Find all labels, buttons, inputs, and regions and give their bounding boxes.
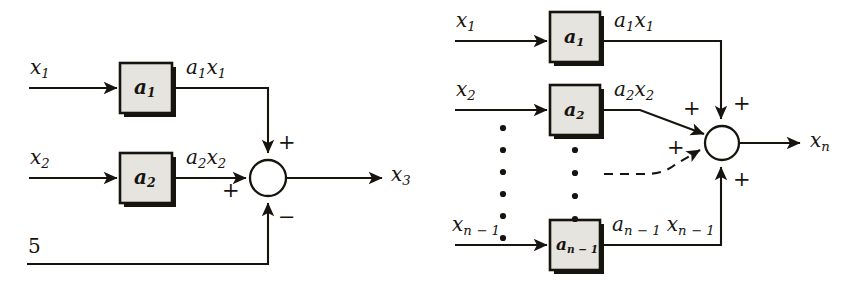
left-signal1-wire xyxy=(172,88,268,153)
left-output-label: x3 xyxy=(391,164,411,187)
left-constant-label: 5 xyxy=(28,236,41,256)
left-sign-top: + xyxy=(278,132,296,153)
left-signal2-label: a2x2 xyxy=(186,147,226,170)
right-summing-junction xyxy=(705,126,739,160)
left-input2-label: x2 xyxy=(30,147,50,170)
right-dashed-signal-wire xyxy=(604,150,700,174)
left-constant-wire xyxy=(27,203,268,264)
right-ellipsis-inner xyxy=(572,147,578,222)
right-signal1-label: a1x1 xyxy=(614,10,654,33)
left-signal1-label: a1x1 xyxy=(186,57,226,80)
right-ellipsis-outer xyxy=(500,125,506,241)
left-sign-bottom: − xyxy=(278,207,296,228)
right-input2-label: x2 xyxy=(456,79,476,102)
right-input1-label: x1 xyxy=(456,10,476,33)
right-output-label: xn xyxy=(810,130,830,153)
left-block-a1-label: a1 xyxy=(134,77,156,100)
right-sign-bottom: + xyxy=(733,169,751,190)
right-block-a2-label: a2 xyxy=(564,100,585,122)
diagram-canvas xyxy=(0,0,852,290)
right-signal2-label: a2x2 xyxy=(614,79,654,102)
right-sign-mid: + xyxy=(667,137,685,158)
right-sign-top-inner: + xyxy=(683,98,701,119)
left-summing-junction xyxy=(250,160,286,196)
right-block-a1-label: a1 xyxy=(564,27,585,49)
right-signal3-label: an − 1xn − 1 xyxy=(612,214,715,237)
right-sign-top-right: + xyxy=(733,93,751,114)
left-sign-left: + xyxy=(222,180,240,201)
right-block-an1-label: an − 1 xyxy=(556,236,598,254)
figure-root: x1 a1 a1x1 x2 a2 a2x2 + + − 5 x3 x1 a1 a… xyxy=(0,0,852,290)
left-input1-label: x1 xyxy=(30,57,50,80)
right-input3-label: xn − 1 xyxy=(452,214,500,237)
left-block-a2-label: a2 xyxy=(134,167,156,190)
